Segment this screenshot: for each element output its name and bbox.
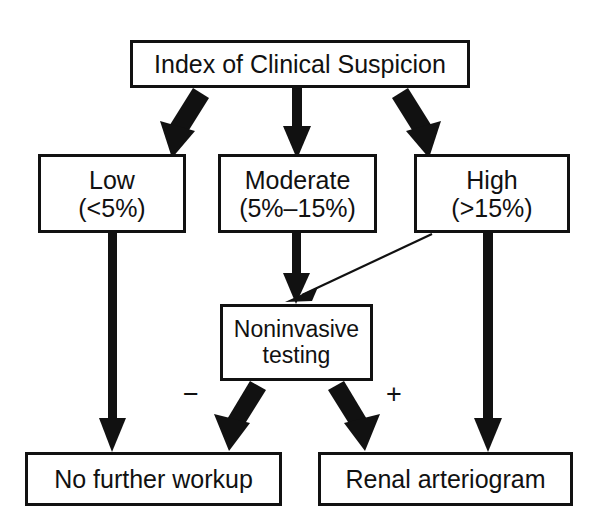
edge-moderate-to-noninvasive	[283, 233, 310, 304]
edge-label-negative: −	[183, 381, 199, 408]
edge-high-to-noninvasive	[285, 234, 432, 302]
edge-noninvasive-positive-to-renal-arteriogram	[328, 381, 380, 451]
node-label-primary: Moderate	[245, 166, 351, 194]
edge-low-to-no-further-workup	[99, 233, 126, 452]
flowchart-canvas: Index of Clinical Suspicion Low (<5%) Mo…	[0, 0, 593, 515]
node-no-further-workup[interactable]: No further workup	[25, 452, 282, 506]
node-label: Renal arteriogram	[345, 465, 545, 493]
edge-root-to-moderate	[283, 88, 311, 159]
node-label: No further workup	[54, 465, 253, 493]
node-low[interactable]: Low (<5%)	[38, 154, 186, 233]
node-high[interactable]: High (>15%)	[414, 154, 570, 233]
node-label-secondary: (5%–15%)	[239, 194, 356, 222]
node-noninvasive-testing[interactable]: Noninvasive testing	[220, 304, 373, 381]
node-label: Index of Clinical Suspicion	[154, 50, 446, 78]
node-label-primary: High	[466, 166, 517, 194]
node-label-secondary: (<5%)	[78, 194, 145, 222]
edge-root-to-low	[160, 88, 209, 158]
edge-high-to-renal-arteriogram	[474, 233, 502, 452]
node-label-secondary: (>15%)	[451, 194, 532, 222]
node-renal-arteriogram[interactable]: Renal arteriogram	[318, 452, 573, 506]
node-label-secondary: testing	[263, 343, 331, 369]
edge-noninvasive-negative-to-no-further-workup	[214, 381, 266, 451]
node-index-of-clinical-suspicion[interactable]: Index of Clinical Suspicion	[130, 40, 470, 88]
edge-root-to-high	[392, 88, 441, 158]
node-label-primary: Low	[89, 166, 135, 194]
edge-label-positive: +	[386, 381, 402, 408]
node-moderate[interactable]: Moderate (5%–15%)	[218, 154, 377, 233]
node-label-primary: Noninvasive	[234, 317, 359, 343]
